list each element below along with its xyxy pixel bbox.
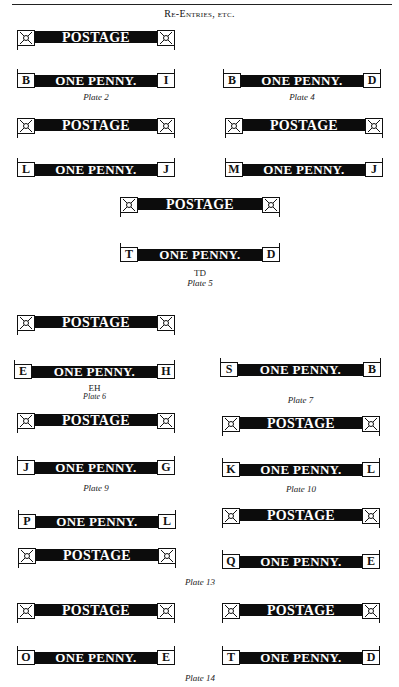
corner-letter-left: P: [18, 514, 36, 529]
star-ornament-icon: [157, 118, 175, 134]
postage-strip-plate13b: POSTAGE: [222, 508, 380, 524]
corner-letter-right: J: [157, 162, 175, 177]
penny-strip-plate5: T ONE PENNY. D: [120, 247, 280, 263]
corner-letter-left: B: [17, 73, 35, 88]
postage-label: POSTAGE: [246, 509, 356, 523]
postage-label: POSTAGE: [41, 604, 151, 618]
star-ornament-icon: [362, 508, 380, 524]
corner-letter-right: G: [157, 460, 175, 475]
postage-label: POSTAGE: [41, 414, 151, 428]
one-penny-label: ONE PENNY.: [243, 74, 361, 88]
star-ornament-icon: [225, 118, 243, 134]
corner-letter-right: H: [157, 364, 175, 379]
one-penny-label: ONE PENNY.: [37, 74, 155, 88]
corner-letter-right: D: [362, 650, 380, 665]
plate5-letters: TD: [120, 268, 280, 278]
penny-strip-plate13b: Q ONE PENNY. E: [222, 554, 380, 570]
corner-letter-right: E: [157, 650, 175, 665]
one-penny-label: ONE PENNY.: [38, 515, 156, 529]
penny-strip-plate6: E ONE PENNY. H: [14, 364, 175, 380]
caption-plate13: Plate 13: [120, 577, 280, 587]
star-ornament-icon: [157, 413, 175, 429]
corner-letter-left: J: [17, 460, 35, 475]
corner-letter-right: D: [363, 73, 381, 88]
corner-letter-right: D: [262, 247, 280, 262]
corner-letter-right: B: [363, 362, 381, 377]
penny-strip-plate4: B ONE PENNY. D: [223, 73, 381, 89]
penny-strip-plate3a: L ONE PENNY. J: [17, 162, 175, 178]
star-ornament-icon: [222, 508, 240, 524]
corner-letter-left: E: [14, 364, 32, 379]
corner-letter-right: E: [362, 554, 380, 569]
caption-plate14: Plate 14: [120, 673, 280, 683]
caption-plate7: Plate 7: [220, 395, 381, 405]
corner-letter-left: M: [225, 162, 243, 177]
postage-strip-plate3a: POSTAGE: [17, 118, 175, 134]
star-ornament-icon: [157, 315, 175, 331]
corner-letter-left: O: [17, 650, 35, 665]
postage-strip-plate10: POSTAGE: [222, 416, 380, 432]
star-ornament-icon: [18, 548, 36, 564]
star-ornament-icon: [157, 603, 175, 619]
star-ornament-icon: [17, 413, 35, 429]
star-ornament-icon: [17, 118, 35, 134]
caption-plate6: Plate 6: [14, 392, 175, 401]
one-penny-label: ONE PENNY.: [37, 651, 155, 665]
penny-strip-plate3b: M ONE PENNY. J: [225, 162, 383, 178]
postage-strip-plate9: POSTAGE: [17, 413, 175, 429]
corner-letter-left: L: [17, 162, 35, 177]
star-ornament-icon: [222, 603, 240, 619]
postage-label: POSTAGE: [246, 417, 356, 431]
postage-strip-plate5: POSTAGE: [120, 197, 280, 213]
penny-strip-plate2: B ONE PENNY. I: [17, 73, 175, 89]
corner-letter-right: J: [365, 162, 383, 177]
caption-plate10: Plate 10: [222, 484, 380, 494]
one-penny-label: ONE PENNY.: [242, 555, 360, 569]
star-ornament-icon: [157, 30, 175, 46]
corner-letter-right: I: [157, 73, 175, 88]
postage-strip-plate14b: POSTAGE: [222, 603, 380, 619]
star-ornament-icon: [362, 603, 380, 619]
postage-label: POSTAGE: [41, 31, 151, 45]
postage-label: POSTAGE: [42, 549, 152, 563]
corner-letter-right: L: [362, 462, 380, 477]
corner-letter-left: T: [222, 650, 240, 665]
postage-label: POSTAGE: [246, 604, 356, 618]
penny-strip-plate9: J ONE PENNY. G: [17, 460, 175, 476]
postage-label: POSTAGE: [249, 119, 359, 133]
corner-letter-left: B: [223, 73, 241, 88]
star-ornament-icon: [17, 315, 35, 331]
penny-strip-plate10: K ONE PENNY. L: [222, 462, 380, 478]
postage-label: POSTAGE: [144, 198, 256, 212]
one-penny-label: ONE PENNY.: [140, 248, 260, 262]
star-ornament-icon: [120, 197, 138, 213]
penny-strip-plate7: S ONE PENNY. B: [220, 362, 381, 378]
star-ornament-icon: [262, 197, 280, 213]
one-penny-label: ONE PENNY.: [240, 363, 361, 377]
star-ornament-icon: [365, 118, 383, 134]
caption-plate4: Plate 4: [223, 92, 381, 102]
postage-label: POSTAGE: [41, 119, 151, 133]
postage-strip-plate2: POSTAGE: [17, 30, 175, 46]
star-ornament-icon: [17, 30, 35, 46]
one-penny-label: ONE PENNY.: [34, 365, 155, 379]
star-ornament-icon: [222, 416, 240, 432]
corner-letter-right: L: [158, 514, 176, 529]
corner-letter-left: Q: [222, 554, 240, 569]
corner-letter-left: T: [120, 247, 138, 262]
caption-plate5: Plate 5: [120, 278, 280, 288]
caption-plate2: Plate 2: [17, 92, 175, 102]
postage-strip-plate13a: POSTAGE: [18, 548, 176, 564]
one-penny-label: ONE PENNY.: [37, 163, 155, 177]
corner-letter-left: S: [220, 362, 238, 377]
postage-strip-plate6: POSTAGE: [17, 315, 175, 331]
penny-strip-plate14a: O ONE PENNY. E: [17, 650, 175, 666]
postage-strip-plate14a: POSTAGE: [17, 603, 175, 619]
star-ornament-icon: [362, 416, 380, 432]
penny-strip-plate14b: T ONE PENNY. D: [222, 650, 380, 666]
one-penny-label: ONE PENNY.: [242, 651, 360, 665]
postage-strip-plate3b: POSTAGE: [225, 118, 383, 134]
page-header: Re-Entries, etc.: [0, 8, 399, 19]
corner-letter-left: K: [222, 462, 240, 477]
star-ornament-icon: [158, 548, 176, 564]
